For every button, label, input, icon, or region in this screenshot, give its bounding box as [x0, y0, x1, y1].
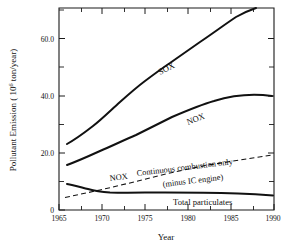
emission-chart-figure: SOX NOX NOX Continuous combustion only (…: [0, 0, 287, 251]
x-tick-label-1965: 1965: [51, 214, 66, 223]
x-tick-label-1975: 1975: [137, 214, 152, 223]
svg-text:Pollutant Emission ( 106 ton/y: Pollutant Emission ( 106 ton/year): [7, 49, 18, 172]
y-axis-title: Pollutant Emission ( 106 ton/year): [7, 49, 18, 172]
x-tick-label-1970: 1970: [94, 214, 109, 223]
y-axis-title-prefix: Pollutant Emission ( 10: [8, 86, 18, 171]
series-label-total-particulates-text: Total particulates: [173, 197, 233, 207]
x-tick-label-1980: 1980: [180, 214, 195, 223]
y-tick-label-20: 20.0: [41, 149, 54, 158]
x-axis-title: Year: [158, 232, 175, 242]
y-axis-title-suffix: ton/year): [8, 49, 18, 84]
chart-canvas: SOX NOX NOX Continuous combustion only (…: [0, 0, 287, 251]
series-label-total-particulates: Total particulates: [173, 197, 233, 207]
y-tick-label-40: 40.0: [41, 92, 54, 101]
x-tick-label-1990: 1990: [265, 214, 280, 223]
y-tick-label-60: 60.0: [41, 35, 54, 44]
x-tick-label-1985: 1985: [223, 214, 238, 223]
